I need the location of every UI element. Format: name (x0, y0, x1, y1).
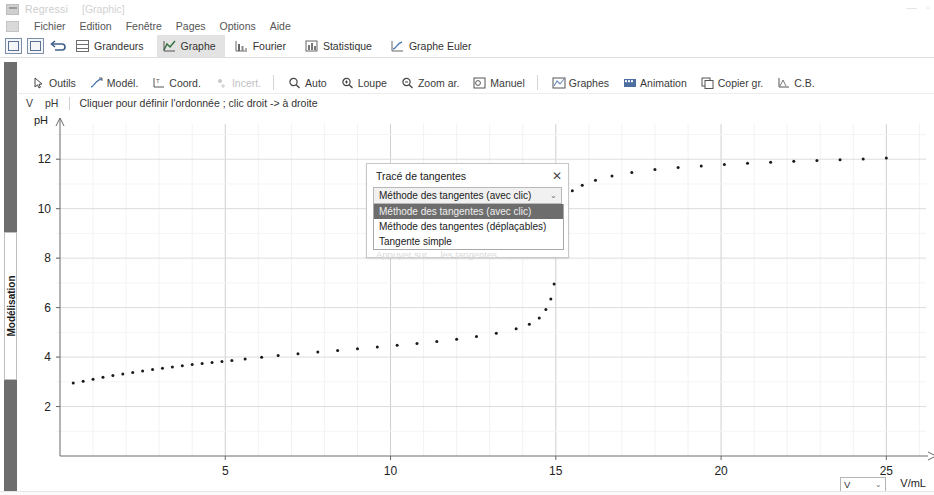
tab-statistique[interactable]: Statistique (299, 35, 381, 57)
document-icon (6, 21, 19, 32)
tab-label: Graphe (181, 40, 216, 52)
tool-label: Modél. (107, 77, 139, 89)
tool-cb[interactable]: C.B. (777, 77, 814, 89)
svg-text:T: T (156, 78, 160, 84)
chevron-down-icon: ⌄ (875, 480, 885, 489)
tool-outils[interactable]: Outils (32, 77, 76, 89)
dialog-obscured-text: Appuyer sur ... les tangentes ... (376, 249, 508, 260)
app-title: Regressi (25, 3, 68, 15)
dialog-title: Tracé de tangentes (376, 170, 466, 182)
tangent-method-dropdown[interactable]: Méthode des tangentes (avec clic) Méthod… (373, 204, 564, 250)
tab-label: Statistique (323, 40, 372, 52)
app-icon (6, 4, 19, 15)
svg-text:10: 10 (384, 464, 398, 478)
hint-strip: V pH Cliquer pour définir l'ordonnée ; c… (18, 94, 934, 112)
dialog-title-bar: Tracé de tangentes ✕ (367, 164, 568, 187)
tangent-method-value: Méthode des tangentes (avec clic) (379, 190, 550, 201)
sidebar-rail-bottom (4, 380, 17, 495)
tab-graphe[interactable]: Graphe (157, 35, 225, 57)
copy-graph-icon (701, 77, 714, 89)
tab-label: Graphe Euler (409, 40, 471, 52)
x-axis-label: V/mL (900, 477, 926, 489)
tab-bar: Grandeurs Graphe Fourier Statistique Gra… (0, 34, 934, 58)
bar-chart-icon (235, 40, 248, 52)
table-icon (76, 40, 89, 52)
tab-label: Grandeurs (94, 40, 144, 52)
magnifier-icon (341, 77, 354, 89)
menu-item-aide[interactable]: Aide (263, 20, 298, 32)
tab-graphe-euler[interactable]: Graphe Euler (385, 35, 480, 57)
tool-label: Coord. (169, 77, 201, 89)
toolbar-separator-1 (273, 75, 274, 90)
tool-label: C.B. (794, 77, 814, 89)
tab-grandeurs[interactable]: Grandeurs (70, 35, 153, 57)
menu-item-fenetre[interactable]: Fenêtre (119, 20, 169, 32)
tab-fourier[interactable]: Fourier (229, 35, 295, 57)
menu-bar: Fichier Edition Fenêtre Pages Options Ai… (0, 18, 934, 34)
svg-text:25: 25 (880, 464, 894, 478)
magnifier-auto-icon (288, 77, 301, 89)
minimize-icon[interactable]: — (906, 2, 916, 13)
svg-text:6: 6 (44, 301, 51, 315)
tool-manuel[interactable]: Manuel (473, 77, 524, 89)
tangent-dialog[interactable]: Tracé de tangentes ✕ Méthode des tangent… (366, 163, 569, 258)
hint-separator (69, 97, 70, 110)
tool-coord[interactable]: T Coord. (152, 77, 201, 89)
sidebar-tab-label: Modélisation (5, 275, 16, 336)
close-icon[interactable]: ✕ (552, 170, 562, 182)
tool-model[interactable]: Modél. (90, 77, 139, 89)
tool-animation[interactable]: Animation (623, 77, 687, 89)
dropdown-option[interactable]: Méthode des tangentes (avec clic) (374, 204, 563, 219)
menu-item-fichier[interactable]: Fichier (27, 20, 73, 32)
sidebar-rail-top (4, 62, 17, 232)
variable-x-label[interactable]: V (26, 97, 33, 109)
dropdown-option[interactable]: Méthode des tangentes (déplaçables) (374, 219, 563, 234)
cb-icon (777, 77, 790, 89)
hint-text: Cliquer pour définir l'ordonnée ; clic d… (79, 97, 317, 109)
svg-text:20: 20 (714, 464, 728, 478)
x-variable-value: V (844, 479, 875, 490)
tool-label: Outils (49, 77, 76, 89)
manual-icon (473, 77, 486, 89)
svg-text:4: 4 (44, 350, 51, 364)
tool-label: Incert. (232, 77, 261, 89)
window-controls: — ▫ (906, 2, 930, 13)
uncertainty-icon (215, 77, 228, 89)
tool-loupe[interactable]: Loupe (341, 77, 387, 89)
tool-label: Graphes (569, 77, 609, 89)
menu-item-edition[interactable]: Edition (73, 20, 119, 32)
tool-zoom-arriere[interactable]: Zoom ar. (401, 77, 459, 89)
tool-label: Copier gr. (718, 77, 764, 89)
maximize-icon[interactable]: ▫ (926, 2, 930, 13)
tool-label: Auto (305, 77, 327, 89)
menu-item-options[interactable]: Options (213, 20, 263, 32)
application-window: Regressi [Graphic] — ▫ — ▫ ✕ Fichier Edi… (0, 0, 934, 495)
x-variable-combobox[interactable]: V ⌄ (840, 477, 886, 492)
tab-label: Fourier (253, 40, 286, 52)
svg-text:2: 2 (44, 400, 51, 414)
save-icon[interactable] (5, 38, 22, 54)
graphs-icon (552, 77, 565, 89)
svg-text:12: 12 (38, 152, 52, 166)
menu-item-pages[interactable]: Pages (169, 20, 213, 32)
animation-icon (623, 77, 636, 89)
dropdown-option[interactable]: Tangente simple (374, 234, 563, 249)
tool-copier-graphe[interactable]: Copier gr. (701, 77, 764, 89)
tool-incert: Incert. (215, 77, 261, 89)
tangent-method-combobox[interactable]: Méthode des tangentes (avec clic) ⌄ (373, 187, 562, 204)
tool-auto[interactable]: Auto (288, 77, 327, 89)
tool-label: Zoom ar. (418, 77, 459, 89)
tool-label: Animation (640, 77, 687, 89)
tool-graphes[interactable]: Graphes (552, 77, 609, 89)
variable-y-label[interactable]: pH (45, 97, 58, 109)
chevron-down-icon: ⌄ (550, 191, 561, 200)
coord-icon: T (152, 77, 165, 89)
undo-icon[interactable] (49, 38, 66, 54)
svg-text:15: 15 (549, 464, 563, 478)
model-curve-icon (90, 77, 103, 89)
sidebar-tab-modelisation[interactable]: Modélisation (4, 232, 17, 380)
svg-text:5: 5 (222, 464, 229, 478)
toolbar-separator-2 (537, 75, 538, 90)
open-image-icon[interactable] (27, 38, 44, 54)
tool-strip: Outils Modél. T Coord. Incert. Auto (18, 72, 934, 94)
